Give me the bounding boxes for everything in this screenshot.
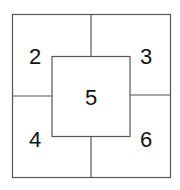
region-label-center: 5 — [85, 85, 97, 110]
region-label-top-right: 3 — [140, 44, 152, 69]
region-label-top-left: 2 — [29, 44, 41, 69]
region-label-bottom-right: 6 — [140, 127, 152, 152]
region-label-bottom-left: 4 — [29, 127, 41, 152]
nested-square-diagram: 2 3 5 4 6 — [0, 0, 180, 190]
